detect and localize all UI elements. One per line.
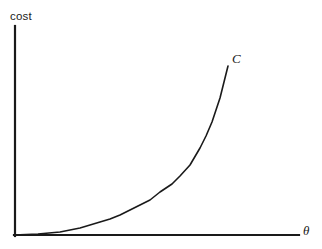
chart-figure: cost θ C — [0, 0, 322, 249]
y-axis-label: cost — [10, 11, 32, 23]
plot-area — [0, 0, 322, 249]
plot-background — [0, 0, 322, 249]
curve-label: C — [232, 52, 241, 65]
x-axis-label: θ — [303, 224, 309, 237]
